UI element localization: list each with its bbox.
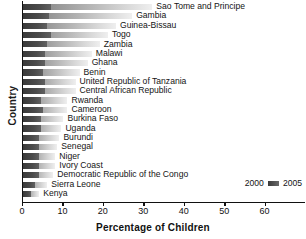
bar-2005 (23, 60, 45, 66)
bar-2005 (23, 182, 35, 188)
legend-swatch-icon (268, 181, 279, 186)
bar-2005 (23, 13, 49, 19)
bar-2005 (23, 153, 39, 159)
x-tick-label: 40 (179, 206, 189, 216)
bar-2005 (23, 125, 41, 131)
bar-2005 (23, 23, 47, 29)
bar-2005 (23, 69, 43, 75)
x-tick-label: 20 (98, 206, 108, 216)
bar-rows: Sao Tome and PrincipeGambiaGuinea-Bissau… (23, 1, 305, 202)
bar-2005 (23, 51, 45, 57)
x-tick-label: 50 (219, 206, 229, 216)
bar-2005 (23, 116, 41, 122)
legend-label-2000: 2000 (245, 178, 264, 188)
x-tick-label: 10 (57, 206, 67, 216)
plot-area: Sao Tome and PrincipeGambiaGuinea-Bissau… (22, 1, 305, 203)
bar-2005 (23, 97, 41, 103)
bar-category-label: Sao Tome and Principe (156, 1, 245, 11)
x-tick-label: 30 (138, 206, 148, 216)
bar-2005 (23, 144, 39, 150)
bar-2005 (23, 135, 39, 141)
x-axis-title: Percentage of Children (0, 222, 306, 233)
y-axis-title: Country (7, 66, 18, 146)
bar-2005 (23, 79, 45, 85)
chart-legend: 2000 2005 (245, 178, 302, 188)
bar-2005 (23, 4, 51, 10)
bar-2005 (23, 88, 45, 94)
x-tick-label: 0 (19, 206, 24, 216)
bar-2005 (23, 191, 31, 197)
bar-2005 (23, 172, 39, 178)
bar-2005 (23, 163, 39, 169)
legend-label-2005: 2005 (283, 178, 302, 188)
chart-figure: Country Sao Tome and PrincipeGambiaGuine… (0, 0, 306, 239)
x-tick-label: 60 (260, 206, 270, 216)
bar-2005 (23, 107, 43, 113)
bar-2005 (23, 41, 47, 47)
bar-category-label: Kenya (43, 188, 67, 198)
bar-2005 (23, 32, 51, 38)
